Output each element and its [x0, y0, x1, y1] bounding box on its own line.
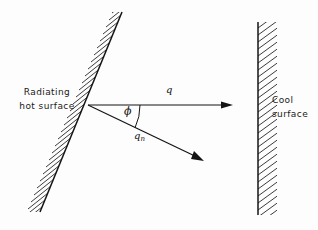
cool-surface-label-line1: Cool: [272, 94, 318, 108]
diagram-canvas: [0, 0, 318, 230]
qn-vector-label-subscript: n: [140, 135, 145, 143]
qn-vector-label: qn: [134, 130, 145, 143]
qn-vector: [88, 105, 204, 161]
cool-surface-hatching: [258, 12, 280, 230]
cool-surface-label-line2: surface: [272, 108, 318, 122]
hot-surface-label-line2: hot surface: [9, 100, 85, 114]
radiation-diagram: Radiating hot surface Cool surface q qn …: [0, 0, 318, 230]
hot-surface-label-line1: Radiating: [9, 86, 85, 100]
q-vector-label: q: [166, 84, 172, 95]
cool-surface-group: [258, 12, 280, 230]
q-vector-arrowhead: [221, 102, 233, 109]
qn-vector-arrowhead: [191, 151, 204, 161]
angle-arc: [135, 105, 140, 128]
hot-surface-label: Radiating hot surface: [9, 86, 85, 113]
cool-surface-label: Cool surface: [272, 94, 318, 121]
q-vector: [88, 102, 233, 109]
phi-angle-label: ϕ: [124, 105, 132, 118]
